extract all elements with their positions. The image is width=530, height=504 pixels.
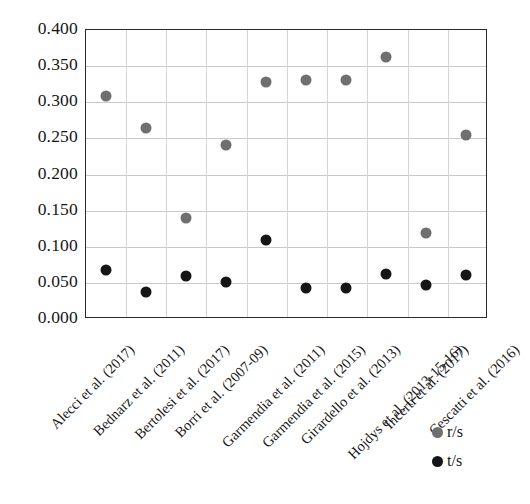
- data-point-t-s-6: [341, 282, 352, 293]
- black-circle-marker-icon: [432, 456, 443, 467]
- y-axis-tick-0050: 0.050: [16, 273, 78, 291]
- data-point-t-s-5: [301, 282, 312, 293]
- gridline-horizontal-0300: [86, 102, 486, 103]
- data-point-t-s-3: [221, 276, 232, 287]
- gridline-vertical-9: [448, 30, 449, 317]
- gridline-horizontal-0200: [86, 175, 486, 176]
- data-point-r-s-2: [181, 212, 192, 223]
- data-point-t-s-0: [101, 264, 112, 275]
- gray-circle-marker-icon: [432, 427, 443, 438]
- data-point-r-s-9: [461, 130, 472, 141]
- data-point-r-s-3: [221, 139, 232, 150]
- legend-label-ts: t/s: [447, 453, 462, 469]
- legend-item-rs[interactable]: r/s: [432, 424, 463, 440]
- gridline-vertical-4: [247, 30, 248, 317]
- gridline-vertical-2: [166, 30, 167, 317]
- y-axis-tick-0150: 0.150: [16, 201, 78, 219]
- y-axis-tick-0250: 0.250: [16, 128, 78, 146]
- y-axis-tick-0350: 0.350: [16, 56, 78, 74]
- gridline-vertical-1: [126, 30, 127, 317]
- y-axis-tick-0000: 0.000: [16, 309, 78, 327]
- data-point-t-s-7: [381, 268, 392, 279]
- y-axis-tick-labels: 0.400 0.350 0.300 0.250 0.200 0.150 0.10…: [12, 0, 78, 504]
- data-point-r-s-0: [101, 91, 112, 102]
- data-point-r-s-8: [421, 228, 432, 239]
- gridline-horizontal-0350: [86, 66, 486, 67]
- gridline-vertical-8: [408, 30, 409, 317]
- data-point-r-s-7: [381, 51, 392, 62]
- gridline-vertical-5: [287, 30, 288, 317]
- gridline-horizontal-0100: [86, 247, 486, 248]
- y-axis-tick-0400: 0.400: [16, 20, 78, 38]
- y-axis-tick-0300: 0.300: [16, 92, 78, 110]
- scatter-chart-figure: 0.400 0.350 0.300 0.250 0.200 0.150 0.10…: [0, 0, 530, 504]
- gridline-horizontal-0250: [86, 138, 486, 139]
- gridline-vertical-3: [206, 30, 207, 317]
- data-point-r-s-5: [301, 74, 312, 85]
- data-point-r-s-4: [261, 76, 272, 87]
- legend-label-rs: r/s: [447, 424, 463, 440]
- data-point-r-s-6: [341, 74, 352, 85]
- data-point-r-s-1: [141, 123, 152, 134]
- legend-item-ts[interactable]: t/s: [432, 453, 463, 469]
- data-point-t-s-9: [461, 270, 472, 281]
- y-axis-tick-0100: 0.100: [16, 237, 78, 255]
- gridline-vertical-6: [327, 30, 328, 317]
- gridline-vertical-7: [367, 30, 368, 317]
- data-point-t-s-2: [181, 271, 192, 282]
- y-axis-tick-0200: 0.200: [16, 165, 78, 183]
- data-point-t-s-4: [261, 235, 272, 246]
- plot-area: [85, 29, 487, 318]
- data-point-t-s-1: [141, 286, 152, 297]
- data-point-t-s-8: [421, 280, 432, 291]
- chart-legend: r/s t/s: [432, 424, 463, 482]
- gridline-horizontal-0150: [86, 211, 486, 212]
